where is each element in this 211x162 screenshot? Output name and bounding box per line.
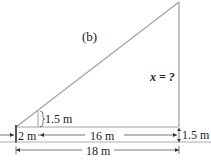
unknown-height-label: x = ? bbox=[150, 71, 175, 83]
middle-distance-label: 16 m bbox=[90, 130, 114, 142]
arrow-icon bbox=[40, 133, 44, 137]
arrow-icon bbox=[177, 128, 181, 131]
arrow-icon bbox=[16, 148, 20, 152]
arrow-icon bbox=[10, 133, 14, 137]
hypotenuse-line bbox=[16, 2, 179, 127]
arrow-icon bbox=[177, 139, 181, 142]
figure-label: (b) bbox=[82, 30, 97, 43]
arrow-icon bbox=[173, 133, 177, 137]
eye-level-label: 1.5 m bbox=[182, 129, 209, 141]
person-height-label: 1.5 m bbox=[45, 113, 72, 125]
person-distance-label: 2 m bbox=[18, 130, 36, 142]
arrow-icon bbox=[175, 148, 179, 152]
total-distance-label: 18 m bbox=[86, 145, 110, 157]
